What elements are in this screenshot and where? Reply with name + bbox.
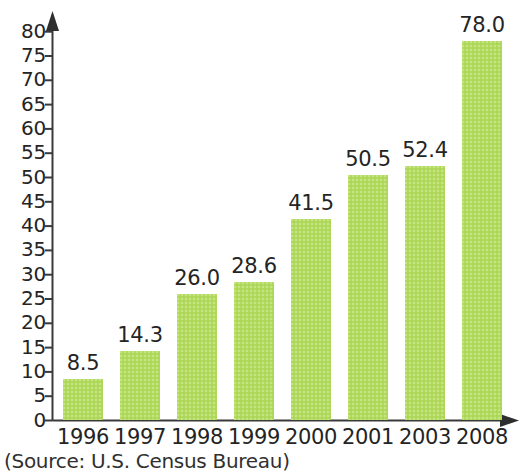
y-tick-label: 40	[4, 215, 46, 235]
y-tick-label: 35	[4, 239, 46, 259]
y-tick-label: 0	[4, 410, 46, 430]
bar[interactable]	[291, 219, 331, 421]
y-tick-label: 60	[4, 118, 46, 138]
y-tick-label: 80	[4, 21, 46, 41]
bar-value-label: 50.5	[336, 149, 400, 170]
y-tick-label: 75	[4, 45, 46, 65]
plot-area: 8.5199614.3199726.0199828.6199941.520005…	[53, 0, 523, 471]
bar-chart: 05101520253035404550556065707580 8.51996…	[0, 0, 523, 471]
y-axis-tick-labels: 05101520253035404550556065707580	[0, 0, 46, 471]
bar-value-label: 26.0	[165, 268, 229, 289]
x-tick-label: 1997	[108, 427, 172, 448]
x-tick-label: 1998	[165, 427, 229, 448]
y-tick-label: 20	[4, 312, 46, 332]
bar-value-label: 78.0	[450, 15, 514, 36]
bar[interactable]	[462, 41, 502, 420]
y-tick-label: 25	[4, 288, 46, 308]
bar[interactable]	[120, 351, 160, 420]
x-tick-label: 1996	[51, 427, 115, 448]
bar[interactable]	[63, 379, 103, 420]
y-tick-label: 30	[4, 264, 46, 284]
bar-value-label: 41.5	[279, 193, 343, 214]
bar-value-label: 8.5	[51, 353, 115, 374]
x-tick-label: 2003	[393, 427, 457, 448]
bar[interactable]	[177, 294, 217, 420]
x-tick-label: 2001	[336, 427, 400, 448]
y-tick-label: 5	[4, 385, 46, 405]
y-tick-label: 65	[4, 94, 46, 114]
bar[interactable]	[234, 282, 274, 421]
x-tick-label: 2000	[279, 427, 343, 448]
y-tick-label: 15	[4, 337, 46, 357]
bar-value-label: 14.3	[108, 325, 172, 346]
bar-value-label: 52.4	[393, 140, 457, 161]
source-note: (Source: U.S. Census Bureau)	[4, 450, 290, 471]
y-tick-label: 55	[4, 142, 46, 162]
bar[interactable]	[405, 166, 445, 421]
x-tick-label: 1999	[222, 427, 286, 448]
y-tick-label: 10	[4, 361, 46, 381]
y-tick-label: 70	[4, 69, 46, 89]
bar-value-label: 28.6	[222, 256, 286, 277]
y-tick-label: 50	[4, 167, 46, 187]
x-tick-label: 2008	[450, 427, 514, 448]
bar[interactable]	[348, 175, 388, 420]
y-tick-label: 45	[4, 191, 46, 211]
